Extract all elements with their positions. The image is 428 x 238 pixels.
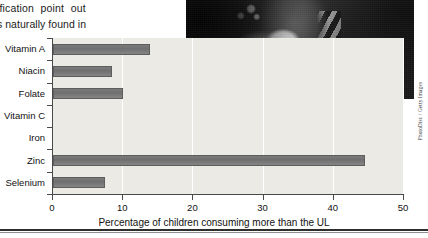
gridline-vertical [403,38,404,194]
y-axis-label: Selenium [0,177,45,188]
gridline-vertical [263,38,264,194]
x-axis-tick [403,195,404,200]
gridline-vertical [192,38,193,194]
x-axis-tick [263,195,264,200]
x-axis-title: Percentage of children consuming more th… [0,217,428,228]
x-axis-tick-label: 10 [102,202,142,213]
bar [53,88,123,99]
y-axis-label: Iron [0,132,45,143]
y-axis-label: Folate [0,88,45,99]
y-axis-tick [47,105,52,106]
x-axis-tick-label: 0 [32,202,72,213]
bar [53,44,150,55]
x-axis-tick [333,195,334,200]
y-axis-line [52,38,53,195]
x-axis-tick [122,195,123,200]
y-axis-label: Niacin [0,65,45,76]
y-axis-tick [47,127,52,128]
x-axis-tick-label: 20 [172,202,212,213]
y-axis-tick [47,60,52,61]
bar [53,177,105,188]
x-axis-tick [52,195,53,200]
y-axis-label: Zinc [0,155,45,166]
y-axis-tick [47,149,52,150]
x-axis-tick [192,195,193,200]
x-axis-tick-label: 30 [243,202,283,213]
x-axis-tick-label: 50 [383,202,423,213]
body-paragraph-line-2: ts naturally found in [0,16,185,32]
body-paragraph: tification point out ts naturally found … [0,0,185,34]
y-axis-tick [47,172,52,173]
gridline-vertical [333,38,334,194]
x-axis-line [52,194,404,195]
bar-chart: Percentage of children consuming more th… [0,34,428,238]
body-paragraph-line-1: tification point out [0,0,185,16]
bar [53,155,365,166]
y-axis-tick [47,38,52,39]
y-axis-label: Vitamin A [0,43,45,54]
y-axis-tick [47,83,52,84]
footer-rule [0,229,428,231]
x-axis-tick-label: 40 [313,202,353,213]
plot-area [52,38,403,194]
y-axis-label: Vitamin C [0,110,45,121]
gridline-vertical [122,38,123,194]
bar [53,66,112,77]
